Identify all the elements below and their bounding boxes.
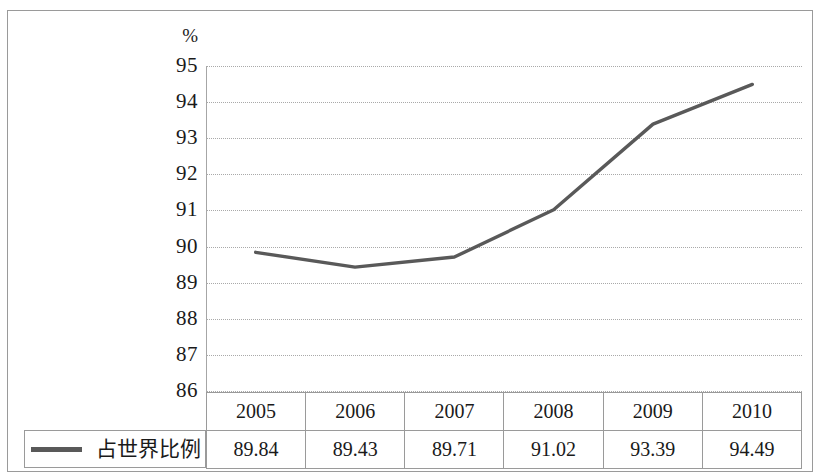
legend-label: 占世界比例 [96,439,201,460]
y-tick-label-93: 93 [152,127,198,148]
table-header-cell-2008: 2008 [504,393,603,431]
table-value-cell-2007: 89.71 [405,431,504,469]
table-header-cell-2005: 2005 [207,393,306,431]
y-tick-label-90: 90 [152,236,198,257]
table-header-cell-2009: 2009 [603,393,702,431]
table-header-cell-2010: 2010 [702,393,801,431]
y-tick-label-95: 95 [152,55,198,76]
legend: 占世界比例 [24,430,206,468]
table-value-cell-2009: 93.39 [603,431,702,469]
y-tick-label-94: 94 [152,91,198,112]
chart-figure: % 95949392919089888786 占世界比例 20052006200… [0,0,821,473]
y-tick-label-91: 91 [152,199,198,220]
series-line-chart [206,66,802,391]
legend-line-swatch-icon [31,447,82,452]
table-value-cell-2006: 89.43 [306,431,405,469]
y-tick-label-88: 88 [152,308,198,329]
table-header-cell-2006: 2006 [306,393,405,431]
y-tick-label-92: 92 [152,163,198,184]
table-header-cell-2007: 2007 [405,393,504,431]
y-tick-label-87: 87 [152,344,198,365]
series-polyline [256,84,753,267]
y-tick-label-86: 86 [152,380,198,401]
y-axis-tick-labels: 95949392919089888786 [152,0,198,473]
plot-area [206,66,802,391]
table-value-cell-2010: 94.49 [702,431,801,469]
table-row-values: 89.8489.4389.7191.0293.3994.49 [207,431,802,469]
y-tick-label-89: 89 [152,272,198,293]
table-row-categories: 200520062007200820092010 [207,393,802,431]
table-value-cell-2005: 89.84 [207,431,306,469]
data-table: 200520062007200820092010 89.8489.4389.71… [206,392,802,469]
table-value-cell-2008: 91.02 [504,431,603,469]
